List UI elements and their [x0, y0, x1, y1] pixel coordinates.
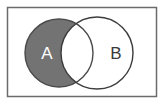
venn-diagram-figure: A B [0, 0, 164, 105]
set-b-label: B [110, 44, 121, 63]
venn-diagram-canvas: A B [0, 0, 164, 105]
set-a-label: A [41, 44, 53, 63]
